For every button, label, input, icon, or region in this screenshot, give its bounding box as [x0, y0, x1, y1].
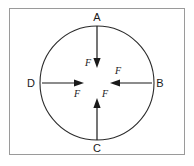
force-label-b: F — [114, 65, 122, 76]
physics-force-diagram: A B C D F F F F — [0, 0, 194, 166]
diagram-canvas: A B C D F F F F — [0, 0, 194, 166]
point-label-b: B — [156, 77, 163, 89]
point-label-c: C — [93, 142, 101, 154]
point-label-d: D — [27, 77, 35, 89]
force-label-d: F — [73, 88, 81, 99]
point-label-a: A — [93, 11, 101, 23]
force-label-c: F — [101, 88, 109, 99]
force-label-a: F — [84, 57, 92, 68]
